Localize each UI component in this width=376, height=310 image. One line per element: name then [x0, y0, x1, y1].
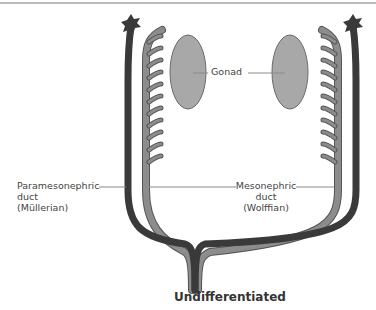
right-gonad	[272, 35, 308, 109]
paramesonephric-label-line3: (Müllerian)	[17, 202, 99, 213]
left-gonad	[170, 35, 206, 109]
right-fimbria-icon	[343, 14, 363, 34]
figure-caption: Undifferentiated	[0, 290, 376, 304]
paramesonephric-duct-label: Paramesonephric duct (Müllerian)	[17, 180, 99, 213]
mesonephric-label-line3: (Wolffian)	[220, 202, 312, 213]
left-mesonephric-tubules	[149, 36, 161, 162]
mesonephric-duct-label: Mesonephric duct (Wolffian)	[220, 180, 312, 213]
left-fimbria-icon	[121, 14, 141, 34]
gonad-label: Gonad	[211, 66, 242, 77]
paramesonephric-label-line2: duct	[17, 191, 99, 202]
undifferentiated-duct-diagram	[0, 0, 376, 310]
mesonephric-label-line1: Mesonephric	[220, 180, 312, 191]
paramesonephric-label-line1: Paramesonephric	[17, 180, 99, 191]
right-mesonephric-tubules	[323, 36, 335, 162]
mesonephric-label-line2: duct	[220, 191, 312, 202]
